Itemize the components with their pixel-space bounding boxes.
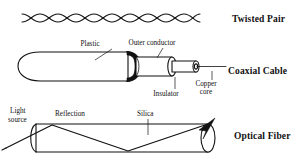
coaxial-cable-illustration bbox=[18, 52, 226, 82]
twisted-pair-strand-b bbox=[22, 14, 200, 22]
optical-fiber-left-end-arc bbox=[31, 124, 36, 152]
twisted-pair-illustration bbox=[22, 14, 200, 22]
coax-plastic-label: Plastic bbox=[80, 40, 99, 48]
optical-fiber-illustration bbox=[2, 118, 215, 152]
optical-fiber-source-beam bbox=[2, 148, 6, 150]
coaxial-cable-label: Coaxial Cable bbox=[228, 66, 287, 76]
coax-inner-dielectric-cylinder bbox=[172, 61, 196, 72]
diagram-canvas: Twisted Pair Plastic Outer bbox=[0, 0, 306, 163]
reflection-label: Reflection bbox=[55, 110, 85, 118]
transmission-media-diagram: Twisted Pair Plastic Outer bbox=[0, 0, 306, 163]
coax-insulator-label: Insulator bbox=[153, 90, 179, 98]
coax-copper-label-line-2: core bbox=[200, 88, 212, 96]
optical-fiber-label: Optical Fiber bbox=[234, 131, 291, 141]
twisted-pair-label: Twisted Pair bbox=[232, 14, 286, 24]
coax-insulator-cylinder bbox=[136, 57, 172, 76]
silica-label: Silica bbox=[137, 110, 154, 118]
light-source-label-line-2: source bbox=[8, 116, 27, 124]
light-source-label-line-1: Light bbox=[10, 107, 26, 115]
coax-plastic-jacket bbox=[18, 52, 128, 81]
coax-outer-conductor-label: Outer conductor bbox=[129, 39, 177, 47]
coax-copper-label-line-1: Copper bbox=[195, 80, 217, 88]
